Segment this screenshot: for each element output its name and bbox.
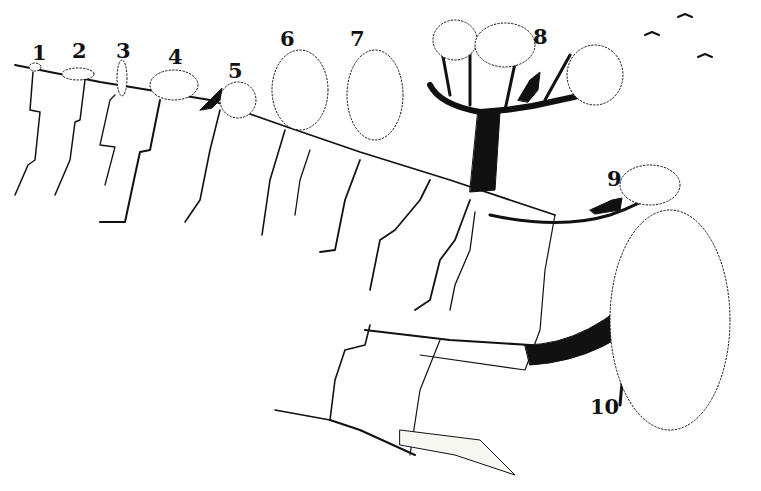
label-8: 8	[533, 26, 548, 47]
label-4: 4	[168, 46, 183, 67]
label-10: 10	[590, 396, 619, 417]
label-3: 3	[116, 40, 131, 61]
label-7: 7	[350, 28, 365, 49]
label-2: 2	[72, 40, 87, 61]
label-5: 5	[228, 60, 243, 81]
cliff-vegetation-illustration: 1 2 3 4 5 6 7 8 9 10	[0, 0, 761, 491]
label-9: 9	[607, 168, 622, 189]
cliff-drawing	[0, 0, 761, 491]
label-6: 6	[280, 28, 295, 49]
label-1: 1	[32, 42, 47, 63]
